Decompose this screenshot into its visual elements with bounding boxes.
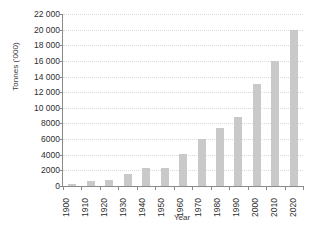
bar [124, 174, 132, 186]
y-axis-tick-label: 18 000 [8, 40, 60, 50]
bar [161, 168, 169, 186]
bar-slot [285, 14, 303, 186]
bar-slot [100, 14, 118, 186]
y-axis-tick-label: 4000 [8, 150, 60, 160]
y-axis-tick-label: 22 000 [8, 9, 60, 19]
bar [142, 168, 150, 186]
y-axis-tick-label: 2000 [8, 165, 60, 175]
bar-slot [118, 14, 136, 186]
bar-slot [155, 14, 173, 186]
bar [216, 128, 224, 186]
y-axis-tick-label: 10 000 [8, 103, 60, 113]
bar [253, 84, 261, 186]
bar-slot [81, 14, 99, 186]
bar-slot [229, 14, 247, 186]
bar-slot [137, 14, 155, 186]
bar [198, 139, 206, 186]
bar-series [63, 14, 303, 186]
y-axis-tick-label: 6000 [8, 134, 60, 144]
x-axis-title: Year [62, 213, 302, 222]
y-axis-tick-label: 14 000 [8, 72, 60, 82]
bar-slot [266, 14, 284, 186]
y-axis-tick-label: 20 000 [8, 25, 60, 35]
bar-slot [192, 14, 210, 186]
y-axis-tick-label: 16 000 [8, 56, 60, 66]
bar-slot [174, 14, 192, 186]
bar [179, 154, 187, 186]
bar [271, 61, 279, 186]
y-axis-tick-label: 12 000 [8, 87, 60, 97]
y-axis-tick-labels: 0200040006000800010 00012 00014 00016 00… [8, 10, 60, 190]
bar [234, 117, 242, 186]
bar-slot [63, 14, 81, 186]
y-axis-tick-label: 8000 [8, 118, 60, 128]
plot-area [62, 14, 303, 187]
bar-slot [248, 14, 266, 186]
y-axis-tick-label: 0 [8, 181, 60, 191]
bar-chart: Tonnes ('000) 0200040006000800010 00012 … [0, 0, 312, 225]
bar [290, 30, 298, 186]
bar-slot [211, 14, 229, 186]
